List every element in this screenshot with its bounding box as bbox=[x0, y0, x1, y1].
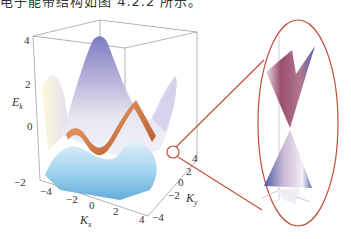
y-axis-label: Ky bbox=[185, 191, 198, 207]
svg-text:4: 4 bbox=[24, 34, 30, 46]
svg-text:−2: −2 bbox=[14, 176, 26, 188]
svg-text:2: 2 bbox=[186, 165, 192, 177]
svg-text:−4: −4 bbox=[40, 185, 52, 197]
band-surface bbox=[42, 36, 176, 200]
svg-text:2: 2 bbox=[113, 205, 119, 217]
svg-text:4: 4 bbox=[192, 152, 198, 164]
svg-text:−4: −4 bbox=[152, 211, 164, 223]
dirac-cone-inset bbox=[262, 35, 315, 204]
svg-text:0: 0 bbox=[27, 120, 33, 132]
svg-text:0: 0 bbox=[89, 199, 95, 211]
z-axis-label: Ek bbox=[11, 95, 23, 111]
svg-text:−2: −2 bbox=[66, 193, 78, 205]
x-axis-label: Kx bbox=[79, 213, 92, 229]
z-axis-ticks: 4 2 0 −2 bbox=[14, 34, 33, 188]
y-axis-ticks: 4 2 0 −2 −4 bbox=[152, 152, 198, 223]
band-structure-figure: 4 2 0 −2 Ek −4 −2 0 2 4 Kx 4 2 0 −2 −4 K… bbox=[0, 0, 351, 239]
svg-text:4: 4 bbox=[139, 213, 145, 225]
svg-text:−2: −2 bbox=[168, 189, 180, 201]
dirac-point-marker bbox=[167, 146, 179, 158]
svg-text:2: 2 bbox=[25, 78, 31, 90]
svg-text:0: 0 bbox=[178, 176, 184, 188]
